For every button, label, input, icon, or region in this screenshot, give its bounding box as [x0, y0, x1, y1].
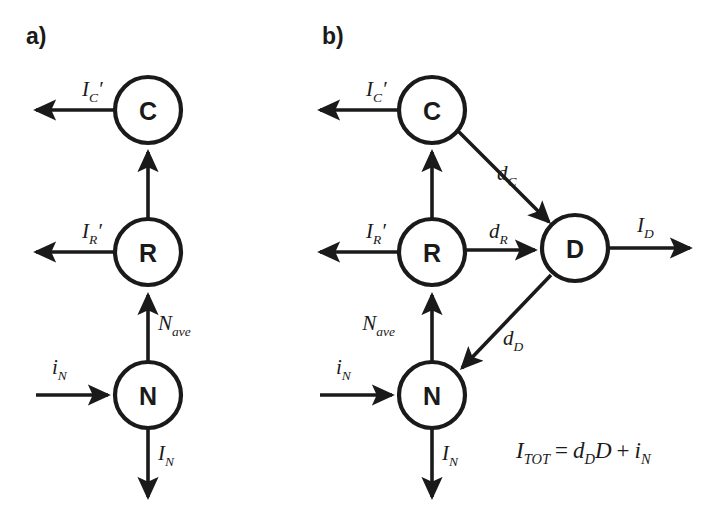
panel-b-node-D: D [542, 215, 608, 281]
edge-label-sub: D [643, 226, 654, 241]
node-label: C [423, 97, 441, 125]
edge-label-main: d [489, 219, 500, 243]
equation-lhs-sub: TOT [524, 451, 551, 467]
equation-equals: = [555, 438, 568, 463]
edge-label-prime: ′ [382, 77, 387, 101]
edge-label-main: d [497, 161, 508, 185]
node-label: N [139, 382, 157, 410]
node-label: N [423, 382, 441, 410]
edge-label-prime: ′ [97, 219, 102, 243]
edge-label-sub: N [341, 368, 352, 383]
edge-label-sub: N [164, 454, 175, 469]
panel-a-node-N: N [115, 362, 181, 428]
node-label: D [566, 235, 584, 263]
edge-label-main: d [503, 326, 514, 350]
panel-b-node-C: C [399, 77, 465, 143]
edge-label-sub: N [57, 368, 68, 383]
flow-diagram-figure: a) IC′ IR′ Nave iN IN C [0, 0, 713, 515]
edge-label-sub: R [499, 232, 509, 247]
panel-a-node-R: R [115, 219, 181, 285]
equation-term1-main: d [573, 438, 585, 463]
edge-label-sub: ave [376, 324, 395, 339]
edge-label-prime: ′ [98, 77, 103, 101]
equation-term1-sub: D [584, 451, 596, 467]
panel-b-label: b) [322, 23, 344, 49]
edge-label-sub: N [448, 454, 459, 469]
node-label: R [423, 239, 441, 267]
edge-label-main: N [157, 311, 173, 335]
edge-label-sub: D [513, 339, 524, 354]
panel-b-node-N: N [399, 362, 465, 428]
edge-label-sub: C [508, 174, 518, 189]
node-label: R [139, 239, 157, 267]
edge-label-main: N [361, 311, 377, 335]
equation-term1-factor: D [594, 438, 612, 463]
node-label: C [139, 97, 157, 125]
equation-term2-sub: N [640, 451, 652, 467]
edge-label-sub: ave [172, 324, 191, 339]
panel-a-label: a) [26, 23, 46, 49]
equation-plus: + [617, 438, 630, 463]
edge-label-prime: ′ [381, 219, 386, 243]
diagram-canvas: a) IC′ IR′ Nave iN IN C [0, 0, 713, 515]
panel-a-node-C: C [115, 77, 181, 143]
panel-b-node-R: R [399, 219, 465, 285]
